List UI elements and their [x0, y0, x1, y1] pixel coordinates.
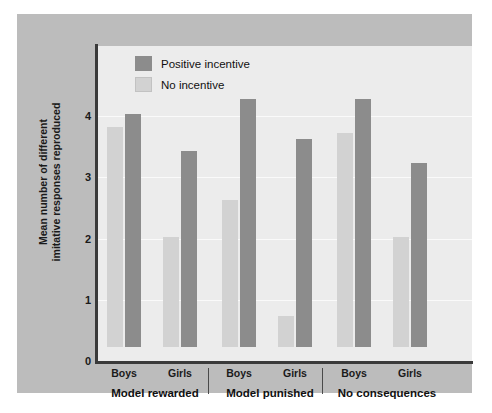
x-sublabel-girls-1: Girls [157, 367, 203, 379]
legend-item-no-incentive: No incentive [135, 77, 250, 92]
bar-positive-incentive [125, 114, 141, 347]
x-group-label-2: No consequences [322, 387, 452, 399]
y-tick-3: 3 [65, 172, 91, 183]
y-tick-4: 4 [65, 111, 91, 122]
bar-no-incentive [278, 316, 294, 347]
bar-positive-incentive [296, 139, 312, 347]
x-axis-line [95, 361, 473, 364]
x-sublabel-girls-3: Girls [272, 367, 318, 379]
x-sublabel-boys-4: Boys [331, 367, 377, 379]
bar-positive-incentive [355, 99, 371, 347]
y-axis-label-line2: imitative responses reproduced [50, 87, 63, 277]
bar-positive-incentive [240, 99, 256, 347]
x-sublabel-boys-2: Boys [216, 367, 262, 379]
bar-no-incentive [337, 133, 353, 347]
x-sublabel-girls-5: Girls [387, 367, 433, 379]
bar-no-incentive [163, 237, 179, 347]
legend-swatch-no-incentive [135, 77, 152, 92]
y-tick-1: 1 [65, 295, 91, 306]
group-separator-0 [208, 368, 209, 394]
y-axis-line [95, 44, 98, 364]
group-separator-1 [322, 368, 323, 394]
legend-label-no-incentive: No incentive [161, 79, 224, 91]
bar-no-incentive [107, 127, 123, 348]
legend-swatch-positive-incentive [135, 56, 152, 71]
x-sublabel-boys-0: Boys [101, 367, 147, 379]
bar-positive-incentive [181, 151, 197, 347]
chart-panel: Positive incentive No incentive 4 3 2 1 … [17, 14, 472, 393]
x-group-label-1: Model punished [205, 387, 335, 399]
y-tick-labels: 4 3 2 1 0 [61, 14, 91, 413]
bar-no-incentive [222, 200, 238, 347]
bar-chart-figure: Positive incentive No incentive 4 3 2 1 … [0, 0, 492, 413]
bar-no-incentive [393, 237, 409, 347]
chart-legend: Positive incentive No incentive [135, 56, 250, 98]
gridline-4 [98, 116, 472, 117]
y-axis-label-line1: Mean number of different [37, 87, 50, 277]
bar-positive-incentive [411, 163, 427, 347]
y-tick-0: 0 [65, 356, 91, 367]
y-axis-label: Mean number of different imitative respo… [37, 87, 63, 277]
legend-item-positive-incentive: Positive incentive [135, 56, 250, 71]
legend-label-positive-incentive: Positive incentive [161, 58, 250, 70]
y-tick-2: 2 [65, 234, 91, 245]
x-group-label-0: Model rewarded [90, 387, 220, 399]
